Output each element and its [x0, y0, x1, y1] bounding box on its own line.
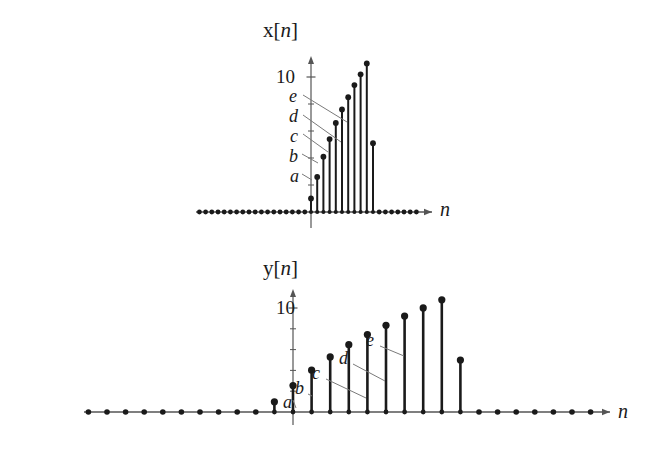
stem-base-dot: [439, 410, 444, 415]
zero-sample-dot: [389, 210, 394, 215]
stem-base-dot: [421, 410, 426, 415]
zero-sample-dot: [395, 210, 400, 215]
stem-head-dot: [401, 313, 408, 320]
annotation-leader-line: [326, 379, 366, 398]
stem-base-dot: [321, 210, 325, 214]
signal-figure: [0, 0, 650, 476]
stem-base-dot: [402, 410, 407, 415]
zero-sample-dot: [247, 210, 252, 215]
zero-sample-dot: [240, 210, 245, 215]
stem-head-dot: [308, 196, 314, 202]
x-plot-title-bracket-close: ]: [291, 18, 298, 42]
stem-base-dot: [328, 210, 332, 214]
annotation-leader-line: [302, 154, 318, 163]
stem-base-dot: [371, 210, 375, 214]
x-plot-title-bracket-open: [: [274, 18, 281, 42]
zero-sample-dot: [203, 210, 208, 215]
x-axis-arrow: [602, 409, 610, 415]
zero-sample-dot: [290, 210, 295, 215]
zero-sample-dot: [408, 210, 413, 215]
zero-sample-dot: [253, 210, 258, 215]
zero-sample-dot: [513, 409, 519, 415]
zero-sample-dot: [234, 210, 239, 215]
annotation-leader-line: [353, 364, 385, 381]
annotation-leader-line: [380, 346, 404, 356]
stem-head-dot: [420, 304, 427, 311]
stem-head-dot: [457, 356, 464, 363]
y-axis-arrow: [308, 56, 314, 64]
zero-sample-dot: [104, 409, 110, 415]
zero-sample-dot: [495, 409, 501, 415]
y-plot-label-c: c: [312, 363, 320, 384]
x-plot-ytick-10: 10: [276, 66, 295, 88]
x-plot-label-b: b: [289, 146, 298, 167]
zero-sample-dot: [271, 210, 276, 215]
zero-sample-dot: [209, 210, 214, 215]
zero-sample-dot: [476, 409, 482, 415]
y-plot-label-e: e: [366, 330, 374, 351]
zero-sample-dot: [551, 409, 557, 415]
zero-sample-dot: [383, 210, 388, 215]
zero-sample-dot: [414, 210, 419, 215]
x-plot: [196, 56, 432, 228]
y-plot-label-b: b: [295, 378, 304, 399]
x-plot-label-c: c: [290, 126, 298, 147]
stem-base-dot: [315, 210, 319, 214]
y-plot-title-var: n: [281, 256, 292, 280]
zero-sample-dot: [402, 210, 407, 215]
stem-head-dot: [358, 71, 364, 77]
y-plot-ytick-10: 10: [276, 297, 295, 319]
zero-sample-dot: [179, 409, 185, 415]
zero-sample-dot: [284, 210, 289, 215]
stem-head-dot: [271, 398, 278, 405]
y-plot-label-a: a: [283, 392, 292, 413]
stem-head-dot: [382, 322, 389, 329]
zero-sample-dot: [197, 409, 203, 415]
x-plot-title-prefix: x: [263, 18, 274, 42]
stem-head-dot: [339, 107, 345, 113]
stem-base-dot: [352, 210, 356, 214]
stem-base-dot: [346, 210, 350, 214]
zero-sample-dot: [259, 210, 264, 215]
x-plot-title-var: n: [281, 18, 292, 42]
stem-base-dot: [384, 410, 389, 415]
stem-head-dot: [345, 94, 351, 100]
y-plot-xaxis-label: n: [618, 400, 628, 423]
zero-sample-dot: [532, 409, 538, 415]
annotation-leader-line: [303, 134, 328, 152]
zero-sample-dot: [296, 210, 301, 215]
stem-head-dot: [438, 296, 445, 303]
zero-sample-dot: [197, 210, 202, 215]
zero-sample-dot: [377, 210, 382, 215]
stem-base-dot: [359, 210, 363, 214]
stem-head-dot: [327, 353, 334, 360]
stem-base-dot: [309, 410, 314, 415]
zero-sample-dot: [228, 210, 233, 215]
zero-sample-dot: [278, 210, 283, 215]
y-axis-arrow: [290, 289, 296, 297]
stem-head-dot: [370, 140, 376, 146]
stem-base-dot: [365, 410, 370, 415]
x-axis-arrow: [424, 209, 432, 215]
zero-sample-dot: [123, 409, 129, 415]
x-plot-label-d: d: [289, 106, 298, 127]
zero-sample-dot: [216, 409, 222, 415]
y-plot-title-bracket-close: ]: [291, 256, 298, 280]
stem-head-dot: [333, 120, 339, 126]
zero-sample-dot: [141, 409, 147, 415]
zero-sample-dot: [86, 409, 92, 415]
stem-base-dot: [328, 410, 333, 415]
stem-head-dot: [327, 136, 333, 142]
zero-sample-dot: [569, 409, 575, 415]
stem-base-dot: [458, 410, 463, 415]
zero-sample-dot: [222, 210, 227, 215]
stem-base-dot: [365, 210, 369, 214]
zero-sample-dot: [216, 210, 221, 215]
zero-sample-dot: [265, 210, 270, 215]
zero-sample-dot: [588, 409, 594, 415]
x-plot-label-a: a: [290, 166, 299, 187]
stem-head-dot: [352, 82, 358, 88]
zero-sample-dot: [234, 409, 240, 415]
stem-head-dot: [314, 174, 320, 180]
y-plot-title: y[n]: [263, 256, 298, 281]
